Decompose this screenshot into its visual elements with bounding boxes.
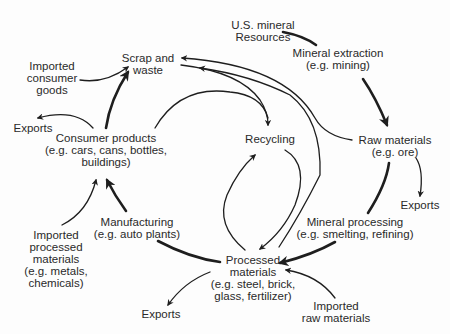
node-label-line: Consumer products bbox=[45, 132, 167, 144]
node-label-line: processed bbox=[24, 241, 87, 253]
node-recycling: Recycling bbox=[245, 133, 295, 145]
node-imported-consumer-goods: Imported consumer goods bbox=[27, 60, 78, 96]
node-label-line: Exports bbox=[14, 122, 53, 134]
node-exports-consumer: Exports bbox=[14, 122, 53, 134]
arrow-processed-to-recycling bbox=[224, 155, 255, 250]
node-label-line: Resources bbox=[231, 31, 294, 43]
node-label-line: (e.g. metals, bbox=[24, 265, 87, 277]
arrow-processed-to-exports bbox=[168, 272, 210, 305]
node-label-line: materials bbox=[211, 266, 295, 278]
arrow-consumer-to-scrap bbox=[106, 72, 128, 128]
node-manufacturing: Manufacturing (e.g. auto plants) bbox=[94, 216, 180, 240]
node-imported-raw-materials: Imported raw materials bbox=[302, 300, 370, 324]
node-label-line: Mineral processing bbox=[297, 216, 414, 228]
node-label-line: raw materials bbox=[302, 312, 370, 324]
arrow-extraction-to-raw bbox=[363, 79, 387, 125]
node-label-line: Processed bbox=[211, 254, 295, 266]
node-label-line: (e.g. mining) bbox=[293, 59, 384, 71]
node-label-line: Exports bbox=[401, 199, 440, 211]
node-exports-raw: Exports bbox=[401, 199, 440, 211]
node-label-line: Imported bbox=[24, 229, 87, 241]
arrow-imported-processed-to-consumer bbox=[62, 180, 96, 225]
node-label-line: Imported bbox=[27, 60, 78, 72]
arrow-recycling-to-processed bbox=[260, 150, 301, 249]
node-mineral-extraction: Mineral extraction (e.g. mining) bbox=[293, 47, 384, 71]
node-label-line: Exports bbox=[142, 308, 181, 320]
node-label-line: (e.g. ore) bbox=[359, 146, 432, 158]
mineral-flow-diagram: U.S. mineral Resources Mineral extractio… bbox=[0, 0, 450, 334]
node-label-line: goods bbox=[27, 84, 78, 96]
node-scrap-and-waste: Scrap and waste bbox=[122, 52, 174, 76]
node-label-line: glass, fertilizer) bbox=[211, 290, 295, 302]
node-label-line: Recycling bbox=[245, 133, 295, 145]
node-label-line: (e.g. auto plants) bbox=[94, 228, 180, 240]
node-label-line: consumer bbox=[27, 72, 78, 84]
node-label-line: buildings) bbox=[45, 156, 167, 168]
node-label-line: U.S. mineral bbox=[231, 19, 294, 31]
node-label-line: Mineral extraction bbox=[293, 47, 384, 59]
arrow-raw-to-exports bbox=[416, 158, 421, 196]
node-label-line: (e.g. cars, cans, bottles, bbox=[45, 144, 167, 156]
node-processed-materials: Processed materials (e.g. steel, brick, … bbox=[211, 254, 295, 302]
node-label-line: Scrap and bbox=[122, 52, 174, 64]
node-raw-materials: Raw materials (e.g. ore) bbox=[359, 134, 432, 158]
node-mineral-processing: Mineral processing (e.g. smelting, refin… bbox=[297, 216, 414, 240]
node-label-line: Manufacturing bbox=[94, 216, 180, 228]
arrow-consumer-to-recycling bbox=[155, 91, 268, 128]
node-imported-processed-materials: Imported processed materials (e.g. metal… bbox=[24, 229, 87, 289]
node-consumer-products: Consumer products (e.g. cars, cans, bott… bbox=[45, 132, 167, 168]
node-label-line: Raw materials bbox=[359, 134, 432, 146]
node-us-mineral-resources: U.S. mineral Resources bbox=[231, 19, 294, 43]
node-exports-processed: Exports bbox=[142, 308, 181, 320]
node-label-line: (e.g. smelting, refining) bbox=[297, 228, 414, 240]
node-label-line: chemicals) bbox=[24, 277, 87, 289]
node-label-line: materials bbox=[24, 253, 87, 265]
arrow-manufacturing-to-consumer bbox=[107, 180, 126, 211]
node-label-line: waste bbox=[122, 64, 174, 76]
arrow-raw-to-processing bbox=[368, 163, 389, 213]
node-label-line: Imported bbox=[302, 300, 370, 312]
node-label-line: (e.g. steel, brick, bbox=[211, 278, 295, 290]
